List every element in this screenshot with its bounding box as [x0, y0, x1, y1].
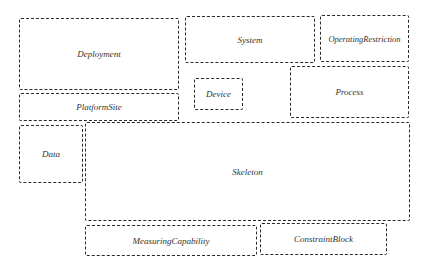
constraintblock-label: ConstraintBlock [294, 234, 353, 244]
constraintblock-block: ConstraintBlock [260, 223, 387, 255]
operatingrestriction-block: OperatingRestriction [320, 15, 409, 62]
deployment-block: Deployment [19, 18, 179, 90]
deployment-label: Deployment [77, 49, 120, 59]
platformsite-label: PlatformSite [76, 102, 122, 112]
data-label: Data [42, 149, 60, 159]
device-block: Device [194, 78, 243, 110]
data-block: Data [19, 125, 83, 183]
system-label: System [238, 35, 263, 45]
device-label: Device [206, 89, 231, 99]
measuringcapability-block: MeasuringCapability [85, 225, 257, 256]
skeleton-block: Skeleton [85, 122, 410, 221]
measuringcapability-label: MeasuringCapability [133, 236, 210, 246]
operatingrestriction-label: OperatingRestriction [328, 34, 400, 44]
platformsite-block: PlatformSite [19, 93, 179, 121]
process-block: Process [290, 66, 409, 118]
system-block: System [185, 16, 315, 63]
process-label: Process [335, 87, 363, 97]
skeleton-label: Skeleton [232, 167, 263, 177]
